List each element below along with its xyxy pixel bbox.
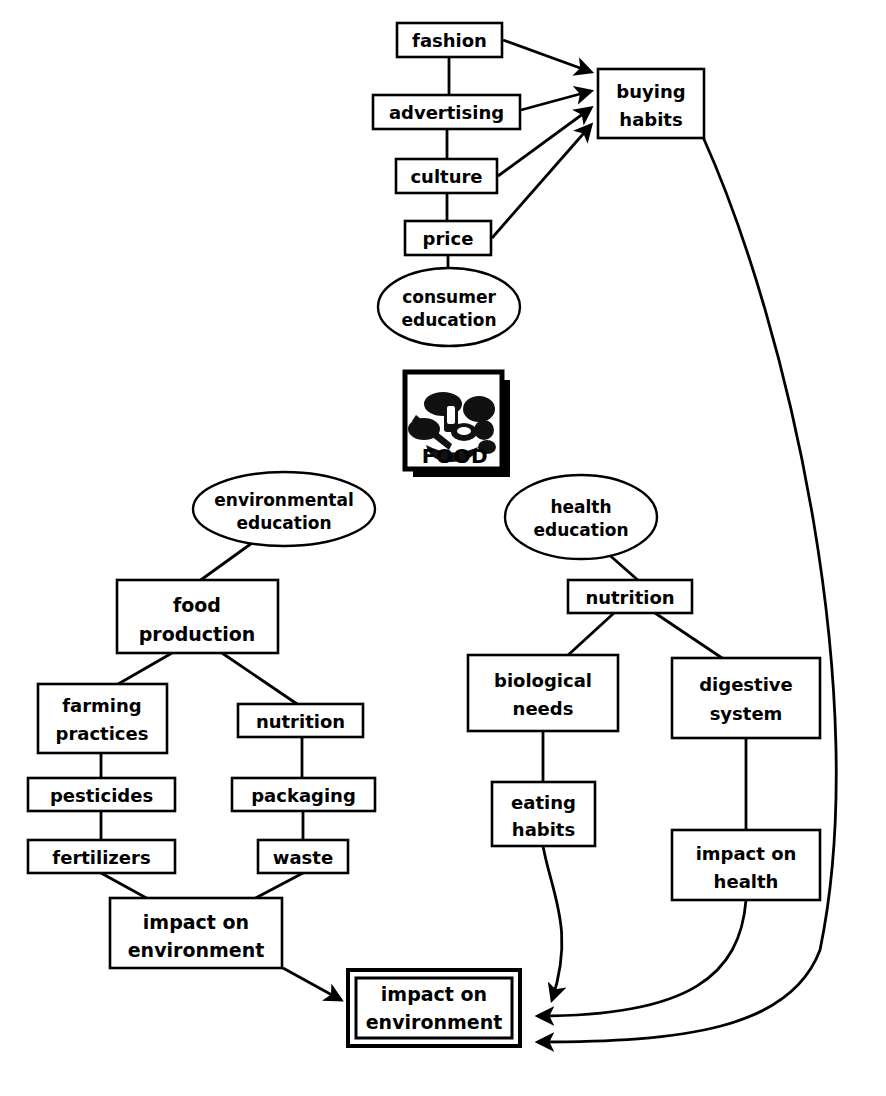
node-farming-practices[interactable]: farming practices [38,684,167,753]
node-advertising-label: advertising [389,102,504,123]
edge-price-buying-habits [492,125,591,238]
node-consumer-education[interactable]: consumer education [378,268,520,346]
node-impact-on-environment-mid[interactable]: impact on environment [110,898,282,968]
node-buying-habits[interactable]: buying habits [598,69,704,138]
node-impact-on-environment-goal[interactable]: impact on environment [348,970,520,1046]
node-waste-label: waste [273,847,333,868]
node-food-icon-tile[interactable]: FOOD [405,372,510,477]
node-health-education-label-line2: education [533,520,628,540]
node-biological-needs-label-line2: needs [513,698,574,719]
node-fertilizers[interactable]: fertilizers [28,840,175,873]
node-eating-habits[interactable]: eating habits [492,782,595,846]
edge-envedu-foodproduction [198,543,252,582]
node-food-production-label-line2: production [139,623,256,645]
node-pesticides[interactable]: pesticides [28,778,175,811]
node-price[interactable]: price [405,221,491,255]
node-impact-on-environment-mid-label-line2: environment [128,939,265,961]
node-biological-needs-label-line1: biological [494,670,592,691]
node-culture-label: culture [410,166,482,187]
node-consumer-education-label-line1: consumer [402,287,496,307]
node-nutrition-health-label: nutrition [585,587,674,608]
node-impact-on-health-label-line2: health [714,871,779,892]
node-fashion-label: fashion [412,30,487,51]
node-impact-on-health[interactable]: impact on health [672,830,820,900]
edge-nutrition-biological [566,613,614,657]
edge-foodprod-farming [113,653,172,687]
node-impact-on-environment-mid-label-line1: impact on [143,911,249,933]
node-digestive-system-label-line1: digestive [699,674,793,695]
node-impact-on-health-label-line1: impact on [696,843,797,864]
node-buying-habits-label-line2: habits [619,109,682,130]
diagram-svg: fashion advertising culture price buying… [0,0,886,1096]
edge-nutrition-digestive [655,613,725,660]
edge-advertising-buying-habits [521,91,591,110]
node-eating-habits-label-line2: habits [512,819,575,840]
node-waste[interactable]: waste [258,840,348,873]
node-food-production-label-line1: food [173,594,221,616]
node-environmental-education-label-line1: environmental [214,490,353,510]
node-advertising[interactable]: advertising [373,95,520,129]
edge-eating-goal [543,846,562,1000]
node-pesticides-label: pesticides [50,785,153,806]
concept-map-canvas: fashion advertising culture price buying… [0,0,886,1096]
node-biological-needs[interactable]: biological needs [468,655,618,731]
node-impact-on-environment-goal-label-line1: impact on [381,983,487,1005]
node-packaging-label: packaging [251,785,356,806]
node-buying-habits-label-line1: buying [616,81,685,102]
node-eating-habits-label-line1: eating [511,792,576,813]
edge-fertilizers-impactenv [101,873,150,900]
node-health-education-label-line1: health [550,497,611,517]
edge-waste-impactenv [252,873,303,900]
node-nutrition-env[interactable]: nutrition [238,704,363,737]
edge-fashion-buying-habits [503,40,591,72]
node-food-production[interactable]: food production [117,580,278,653]
node-farming-practices-label-line1: farming [62,695,141,716]
node-consumer-education-label-line2: education [401,310,496,330]
node-farming-practices-label-line2: practices [56,723,149,744]
node-price-label: price [423,228,474,249]
node-digestive-system-label-line2: system [710,703,783,724]
food-tile-label: FOOD [422,444,488,468]
edge-impacthealth-goal [538,900,746,1016]
node-nutrition-env-label: nutrition [256,711,345,732]
edge-impactenvmid-goal [283,968,341,1000]
node-digestive-system[interactable]: digestive system [672,658,820,738]
node-culture[interactable]: culture [396,159,497,193]
node-environmental-education[interactable]: environmental education [193,472,375,546]
node-fertilizers-label: fertilizers [52,847,150,868]
edge-foodprod-nutrition [222,653,300,706]
node-health-education[interactable]: health education [505,475,657,559]
node-fashion[interactable]: fashion [397,23,502,57]
node-packaging[interactable]: packaging [232,778,375,811]
node-impact-on-environment-goal-label-line2: environment [366,1011,503,1033]
node-environmental-education-label-line2: education [236,513,331,533]
node-nutrition-health[interactable]: nutrition [568,580,692,613]
